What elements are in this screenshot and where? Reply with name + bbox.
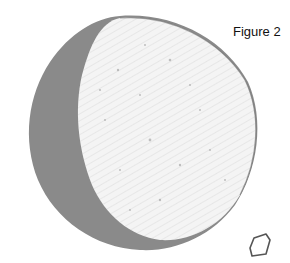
- figure-caption: Figure 2: [233, 24, 281, 39]
- moon-drawing: [0, 0, 290, 263]
- moon-sphere: [29, 10, 270, 250]
- small-pebble-outline: [250, 234, 270, 256]
